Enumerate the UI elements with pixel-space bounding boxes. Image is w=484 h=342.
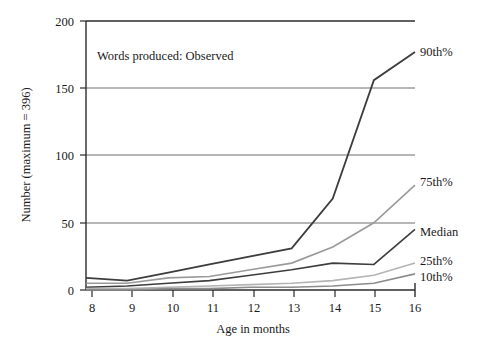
- x-tick-label-10: 10: [167, 301, 180, 315]
- series-label-25th: 25th%: [420, 254, 453, 268]
- series-label-75th: 75th%: [420, 175, 453, 189]
- words-produced-observed-line-chart: 200 150 100 50 0 8 9 10 11 12 13 14 15: [0, 0, 484, 342]
- x-tick-label-11: 11: [207, 301, 219, 315]
- x-tick-label-15: 15: [369, 301, 382, 315]
- x-tick-label-12: 12: [248, 301, 261, 315]
- x-tick-label-13: 13: [288, 301, 301, 315]
- x-axis-title: Age in months: [216, 322, 290, 336]
- series-label-90th: 90th%: [420, 45, 453, 59]
- y-tick-label-100: 100: [55, 149, 74, 163]
- y-tick-label-0: 0: [68, 284, 74, 298]
- y-tick-label-200: 200: [55, 15, 74, 29]
- series-label-median: Median: [420, 225, 459, 239]
- y-tick-label-50: 50: [62, 217, 75, 231]
- series-label-10th: 10th%: [420, 270, 453, 284]
- x-tick-label-9: 9: [129, 301, 135, 315]
- chart-container: 200 150 100 50 0 8 9 10 11 12 13 14 15: [0, 0, 484, 342]
- y-tick-label-150: 150: [55, 82, 74, 96]
- y-axis-title: Number (maximum = 396): [19, 87, 33, 222]
- x-tick-label-8: 8: [89, 301, 95, 315]
- x-tick-label-16: 16: [409, 301, 422, 315]
- chart-annotation: Words produced: Observed: [97, 49, 234, 63]
- x-tick-label-14: 14: [329, 301, 342, 315]
